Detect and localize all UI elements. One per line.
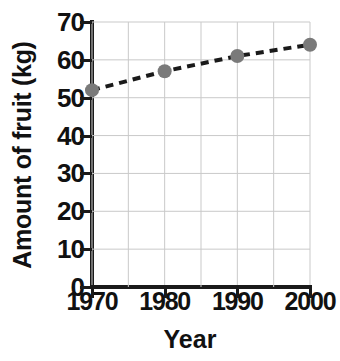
fruit-amount-line-chart: Amount of fruit (kg) 010203040506070 197… <box>0 0 340 361</box>
x-axis-tick-mark <box>91 285 94 298</box>
y-axis-tick-label: 40 <box>36 123 84 149</box>
y-axis-tick-label: 50 <box>36 85 84 111</box>
y-axis-tick-mark <box>80 135 92 138</box>
plot-area <box>92 22 310 287</box>
plot-svg <box>92 22 310 287</box>
x-axis-tick-labels: 1970198019902000 <box>0 289 340 329</box>
data-point-marker <box>85 83 99 97</box>
y-axis-tick-label: 20 <box>36 198 84 224</box>
data-point-marker <box>158 64 172 78</box>
y-axis-tick-mark <box>80 172 92 175</box>
y-axis-tick-label: 10 <box>36 236 84 262</box>
y-axis-tick-mark <box>80 59 92 62</box>
x-axis-tick-mark <box>164 285 167 298</box>
x-axis-title: Year <box>60 325 320 354</box>
y-axis-tick-mark <box>80 21 92 24</box>
data-point-marker <box>303 38 317 52</box>
y-axis-tick-label: 70 <box>36 9 84 35</box>
y-axis-tick-mark <box>80 248 92 251</box>
y-axis-tick-label: 30 <box>36 160 84 186</box>
y-axis-tick-label: 60 <box>36 47 84 73</box>
x-axis-tick-mark <box>236 285 239 298</box>
data-point-marker <box>230 49 244 63</box>
x-axis-tick-mark <box>309 285 312 298</box>
y-axis-tick-mark <box>80 97 92 100</box>
y-axis-tick-mark <box>80 210 92 213</box>
